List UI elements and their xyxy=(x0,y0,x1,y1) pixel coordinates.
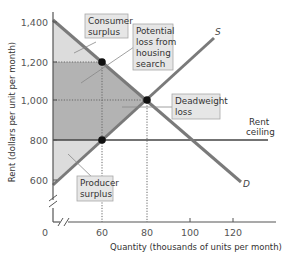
x-tick-100: 100 xyxy=(181,227,199,238)
svg-text:Consumer: Consumer xyxy=(88,16,133,26)
point-60-800 xyxy=(98,136,106,144)
y-tick-800: 800 xyxy=(30,135,48,146)
y-tick-600: 600 xyxy=(30,175,48,186)
potential-loss-callout: Potential loss from housing search xyxy=(133,24,176,70)
svg-text:loss from: loss from xyxy=(136,37,176,47)
producer-surplus-callout: Producer surplus xyxy=(77,176,119,201)
consumer-surplus-callout: Consumer surplus xyxy=(85,14,133,38)
svg-text:Deadweight: Deadweight xyxy=(175,96,228,106)
y-tick-1200: 1,200 xyxy=(21,57,48,68)
y-tick-1000: 1,000 xyxy=(21,95,48,106)
supply-label: S xyxy=(215,27,221,37)
svg-text:Producer: Producer xyxy=(80,178,119,188)
rent-ceiling-chart: 1,400 1,200 1,000 800 600 0 60 80 100 12… xyxy=(0,0,286,254)
point-80-1000 xyxy=(143,96,151,104)
svg-text:Potential: Potential xyxy=(136,26,175,36)
y-axis-title: Rent (dollars per unit per month) xyxy=(7,42,17,182)
svg-text:search: search xyxy=(136,59,165,69)
rent-ceiling-label-line2: ceiling xyxy=(246,127,275,137)
x-tick-60: 60 xyxy=(96,227,108,238)
x-tick-80: 80 xyxy=(141,227,153,238)
svg-text:housing: housing xyxy=(136,48,171,58)
x-axis-title: Quantity (thousands of units per month) xyxy=(110,242,282,252)
svg-text:loss: loss xyxy=(175,107,192,117)
svg-text:surplus: surplus xyxy=(80,189,112,199)
deadweight-loss-region xyxy=(102,62,147,140)
point-60-1200 xyxy=(98,58,106,66)
x-tick-120: 120 xyxy=(224,227,242,238)
svg-text:surplus: surplus xyxy=(88,27,120,37)
y-tick-1400: 1,400 xyxy=(21,17,48,28)
x-tick-0: 0 xyxy=(42,227,48,238)
demand-label: D xyxy=(243,179,250,189)
deadweight-loss-callout: Deadweight loss xyxy=(172,94,228,119)
rent-ceiling-label-line1: Rent xyxy=(249,117,270,127)
